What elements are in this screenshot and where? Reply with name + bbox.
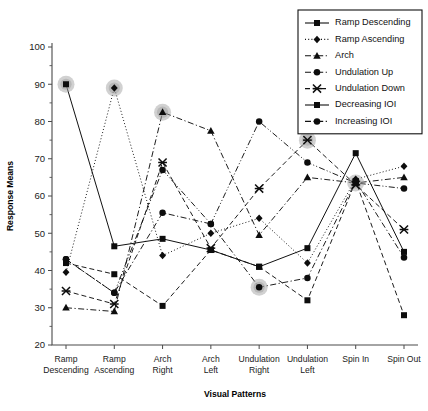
legend-marker-square-icon (314, 20, 320, 26)
x-tick-labels-group: RampDescendingRampAscendingArchRightArch… (43, 354, 421, 375)
data-point-0-6 (353, 150, 359, 156)
y-tick-label: 50 (34, 228, 45, 239)
legend-marker-circle-icon (314, 118, 320, 124)
legend-label: Undulation Up (335, 67, 393, 77)
x-tick-label: RampAscending (94, 354, 134, 375)
data-point-2-0 (62, 304, 70, 311)
legend-label: Arch (335, 50, 354, 60)
series-line-2 (66, 112, 404, 311)
x-tick-label: ArchRight (153, 354, 174, 375)
data-point-5-2 (160, 303, 166, 309)
data-point-1-4 (256, 215, 263, 223)
data-point-4-4 (255, 185, 264, 193)
data-point-1-0 (63, 269, 70, 277)
chart-legend[interactable]: Ramp DescendingRamp AscendingArchUndulat… (298, 10, 422, 134)
data-point-1-2 (159, 252, 166, 260)
series-line-6 (66, 122, 404, 293)
y-tick-label: 100 (29, 41, 45, 52)
chart-canvas: 2030405060708090100 RampDescendingRampAs… (0, 0, 428, 411)
data-point-0-0 (63, 81, 69, 87)
series-line-4 (66, 140, 404, 304)
data-point-2-3 (207, 127, 215, 134)
data-point-6-1 (111, 290, 117, 296)
data-point-4-1 (110, 300, 119, 308)
legend-marker-square-icon (314, 102, 320, 108)
data-point-4-7 (400, 225, 409, 233)
legend-label: Undulation Down (335, 83, 405, 93)
x-tick-label: RampDescending (43, 354, 89, 375)
data-point-5-4 (256, 264, 262, 270)
y-tick-labels-group: 2030405060708090100 (29, 41, 45, 350)
x-tick-label: UndulationLeft (287, 354, 328, 375)
data-point-3-7 (401, 254, 407, 260)
data-point-0-7 (401, 249, 407, 255)
y-tick-label: 80 (34, 116, 45, 127)
data-point-5-1 (111, 271, 117, 277)
data-point-6-6 (352, 180, 358, 186)
data-point-5-3 (208, 247, 214, 253)
data-point-6-4 (256, 118, 262, 124)
y-tick-label: 60 (34, 190, 45, 201)
x-tick-label: Spin Out (387, 354, 421, 364)
y-tick-label: 40 (34, 265, 45, 276)
data-point-0-2 (160, 236, 166, 242)
x-tick-label: ArchLeft (202, 354, 220, 375)
data-point-1-3 (207, 230, 214, 238)
y-tick-label: 20 (34, 339, 45, 350)
legend-label: Increasing IOI (335, 116, 392, 126)
y-axis-title: Response Means (5, 161, 15, 231)
data-point-5-5 (304, 297, 310, 303)
data-point-5-7 (401, 312, 407, 318)
data-point-6-7 (401, 185, 407, 191)
legend-label: Ramp Ascending (335, 34, 404, 44)
data-point-6-0 (63, 256, 69, 262)
data-point-0-5 (304, 245, 310, 251)
data-point-4-2 (158, 158, 167, 166)
y-tick-label: 30 (34, 302, 45, 313)
y-tick-label: 90 (34, 79, 45, 90)
data-point-4-0 (62, 287, 71, 295)
response-means-chart: 2030405060708090100 RampDescendingRampAs… (0, 0, 428, 411)
data-point-6-3 (208, 221, 214, 227)
legend-label: Decreasing IOI (335, 99, 396, 109)
data-point-6-2 (159, 167, 165, 173)
legend-marker-circle-icon (314, 69, 320, 75)
data-point-3-5 (304, 275, 310, 281)
y-tick-label: 70 (34, 153, 45, 164)
legend-label: Ramp Descending (335, 17, 411, 27)
data-point-3-2 (159, 210, 165, 216)
x-axis-title: Visual Patterns (204, 389, 266, 399)
x-tick-label: Spin In (342, 354, 369, 364)
data-point-0-1 (111, 243, 117, 249)
x-tick-label: UndulationRight (239, 354, 280, 375)
data-point-1-5 (304, 259, 311, 267)
data-point-6-5 (304, 159, 310, 165)
data-point-2-7 (400, 173, 408, 180)
data-point-3-4 (256, 284, 262, 290)
data-point-1-7 (401, 162, 408, 170)
data-point-2-5 (304, 173, 312, 180)
